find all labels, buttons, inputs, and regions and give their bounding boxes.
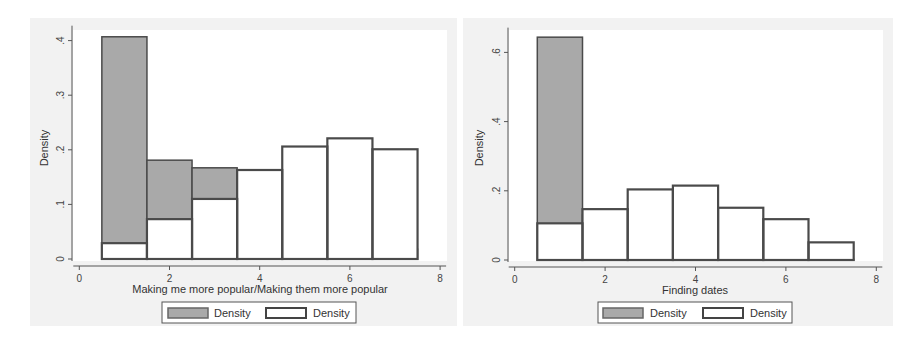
bar-white — [718, 208, 763, 260]
legend: Density Density — [162, 302, 356, 323]
histogram-chart-right: 0.2.4.602468 Finding dates Density Densi… — [473, 28, 883, 323]
legend-label-gray: Density — [214, 307, 251, 319]
y-tick-label: .4 — [491, 117, 502, 126]
bar-white — [809, 242, 854, 260]
bar-white — [372, 149, 417, 259]
bar-white — [537, 223, 582, 260]
legend: Density Density — [598, 302, 792, 323]
legend-swatch-white — [703, 308, 743, 318]
bar-white — [583, 209, 628, 260]
y-tick-label: 0 — [491, 257, 502, 263]
legend-swatch-gray — [168, 308, 208, 318]
legend-label-gray: Density — [650, 307, 687, 319]
bar-white — [763, 219, 808, 260]
x-tick-label: 2 — [602, 274, 608, 285]
x-axis-title: Finding dates — [662, 284, 729, 296]
x-tick-label: 0 — [77, 273, 83, 284]
bar-white — [102, 243, 147, 259]
legend-swatch-gray — [603, 308, 643, 318]
legend-label-white: Density — [750, 307, 787, 319]
bar-white — [192, 199, 237, 259]
y-axis-title: Density — [38, 129, 50, 166]
y-tick-label: .2 — [491, 186, 502, 195]
legend-swatch-white — [266, 308, 306, 318]
bar-white — [147, 219, 192, 259]
bar-white — [282, 147, 327, 259]
legend-label-white: Density — [313, 307, 350, 319]
bar-white — [327, 138, 372, 259]
y-tick-label: .4 — [55, 36, 66, 45]
x-tick-label: 8 — [874, 274, 880, 285]
x-tick-label: 8 — [437, 273, 443, 284]
y-tick-label: .1 — [55, 200, 66, 209]
y-axis-title: Density — [473, 129, 485, 166]
x-tick-label: 0 — [512, 274, 518, 285]
x-axis-title: Making me more popular/Making them more … — [132, 283, 388, 295]
bar-white — [628, 189, 673, 260]
y-tick-label: .2 — [55, 145, 66, 154]
histogram-chart-left: 0.1.2.3.402468 Making me more popular/Ma… — [38, 26, 447, 323]
bar-white — [237, 170, 282, 259]
y-tick-label: 0 — [55, 256, 66, 262]
y-tick-label: .6 — [491, 48, 502, 57]
bar-gray — [102, 37, 147, 259]
y-tick-label: .3 — [55, 91, 66, 100]
bar-white — [673, 186, 718, 260]
x-tick-label: 6 — [783, 274, 789, 285]
charts-canvas: 0.1.2.3.402468 Making me more popular/Ma… — [0, 0, 923, 349]
